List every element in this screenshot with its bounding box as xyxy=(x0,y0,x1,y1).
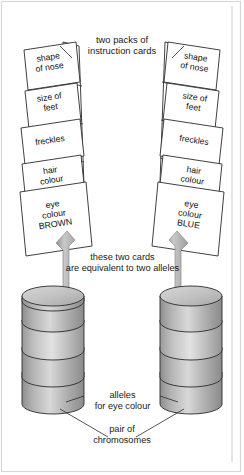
chromosome-right xyxy=(160,286,222,414)
chromosome-right-band-1 xyxy=(160,286,222,306)
pair-leader-right xyxy=(136,409,184,437)
chromosome-right-top-cap xyxy=(160,286,222,306)
chromosome-left xyxy=(22,286,84,414)
pair-leader-left xyxy=(60,409,108,437)
chromosome-left-band-1 xyxy=(22,286,84,311)
chromosome-left-top-cap xyxy=(22,286,84,306)
genetics-diagram: two packs of instruction cards these two… xyxy=(0,0,244,475)
